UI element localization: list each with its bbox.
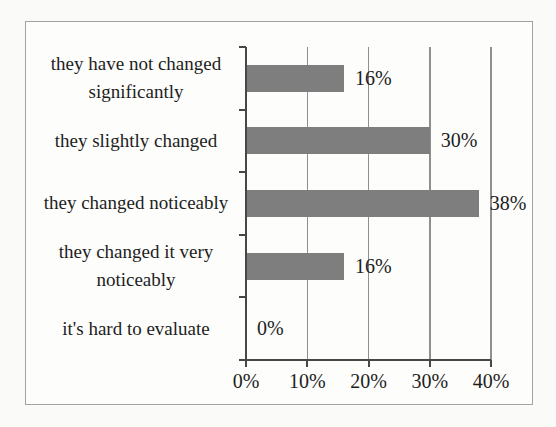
bar	[246, 190, 479, 217]
value-label: 0%	[257, 297, 284, 360]
bar	[246, 65, 344, 92]
y-axis-tick	[239, 296, 246, 298]
y-axis-tick	[239, 46, 246, 48]
page: they have not changed significantlythey …	[0, 0, 556, 427]
y-axis-tick	[239, 109, 246, 111]
value-label: 16%	[355, 235, 392, 298]
value-label: 16%	[355, 47, 392, 110]
value-label: 30%	[441, 110, 478, 173]
bar	[246, 253, 344, 280]
x-axis-tick	[306, 360, 308, 367]
x-axis-tick	[368, 360, 370, 367]
x-tick-label: 40%	[451, 370, 531, 393]
category-label: it's hard to evaluate	[36, 297, 236, 360]
bar	[246, 127, 430, 154]
category-label: they have not changed significantly	[36, 47, 236, 110]
value-label: 38%	[490, 172, 527, 235]
category-label: they changed noticeably	[36, 172, 236, 235]
y-axis-tick	[239, 171, 246, 173]
category-label: they slightly changed	[36, 110, 236, 173]
y-axis-tick	[239, 234, 246, 236]
y-axis-line	[245, 47, 248, 367]
category-label: they changed it very noticeably	[36, 235, 236, 298]
x-axis-tick	[429, 360, 431, 367]
x-axis-tick	[490, 360, 492, 367]
chart-frame: they have not changed significantlythey …	[25, 21, 533, 405]
x-axis-tick	[245, 360, 247, 367]
